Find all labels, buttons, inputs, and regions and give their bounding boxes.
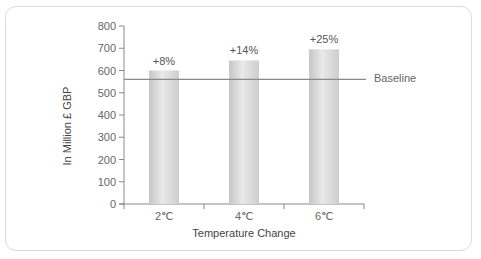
y-tick-label: 400	[98, 109, 116, 121]
bar	[229, 60, 259, 204]
baseline-label: Baseline	[374, 72, 416, 84]
bar-chart: 0100200300400500600700800 2℃4℃6℃ +8%+14%…	[0, 0, 481, 259]
y-tick-label: 0	[110, 198, 116, 210]
y-tick-label: 700	[98, 42, 116, 54]
y-axis: 0100200300400500600700800	[98, 20, 124, 210]
x-tick-label: 4℃	[235, 210, 253, 222]
y-axis-title: In Million £ GBP	[61, 87, 73, 166]
x-tick-label: 2℃	[155, 210, 173, 222]
y-tick-label: 800	[98, 20, 116, 32]
bar	[309, 49, 339, 204]
bars	[149, 49, 339, 204]
y-tick-label: 300	[98, 131, 116, 143]
bar	[149, 71, 179, 205]
y-tick-label: 500	[98, 87, 116, 99]
bar-value-label: +25%	[310, 33, 339, 45]
x-tick-label: 6℃	[315, 210, 333, 222]
y-tick-label: 200	[98, 154, 116, 166]
y-tick-label: 600	[98, 65, 116, 77]
y-tick-label: 100	[98, 176, 116, 188]
x-axis-title: Temperature Change	[192, 227, 295, 239]
x-axis: 2℃4℃6℃	[119, 204, 364, 222]
bar-value-label: +8%	[153, 55, 176, 67]
bar-value-label: +14%	[230, 44, 259, 56]
